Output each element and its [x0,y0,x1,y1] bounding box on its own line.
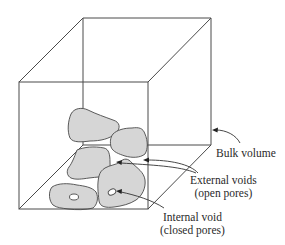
internal-void-label-line1: Internal void [160,211,225,224]
particle-top-right [110,128,147,158]
closed-pore-bottom-left [70,194,79,200]
bulk-volume-diagram [0,0,285,245]
external-voids-arrowhead-1-icon [143,158,149,163]
bulk-volume-label: Bulk volume [216,147,276,160]
external-voids-label-line2: (open pores) [190,187,257,200]
bulk-volume-arrow [216,130,240,143]
internal-void-label-line2: (closed pores) [160,224,225,237]
external-voids-label: External voids (open pores) [190,174,257,200]
internal-void-label: Internal void (closed pores) [160,211,225,237]
external-voids-label-line1: External voids [190,174,257,187]
bulk-volume-arrowhead-icon [212,128,218,133]
